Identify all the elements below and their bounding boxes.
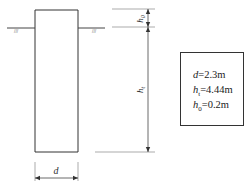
width-dimension: d [35, 162, 78, 181]
vertical-dimension: h0 ht [95, 9, 155, 152]
ground-line-right: /// [78, 28, 105, 34]
h0-label: h0 [135, 15, 146, 23]
param-ht: ht=4.44m [193, 84, 233, 98]
d-label: d [54, 165, 60, 176]
param-h0: h0=0.2m [193, 99, 229, 113]
pile-shape [35, 10, 78, 152]
param-d: d=2.3m [193, 69, 225, 80]
ht-label: ht [135, 87, 146, 94]
svg-text:///: /// [92, 28, 97, 34]
ground-line-left: /// [7, 28, 35, 34]
svg-text:///: /// [14, 28, 19, 34]
parameter-box: d=2.3m ht=4.44m h0=0.2m [180, 52, 244, 126]
